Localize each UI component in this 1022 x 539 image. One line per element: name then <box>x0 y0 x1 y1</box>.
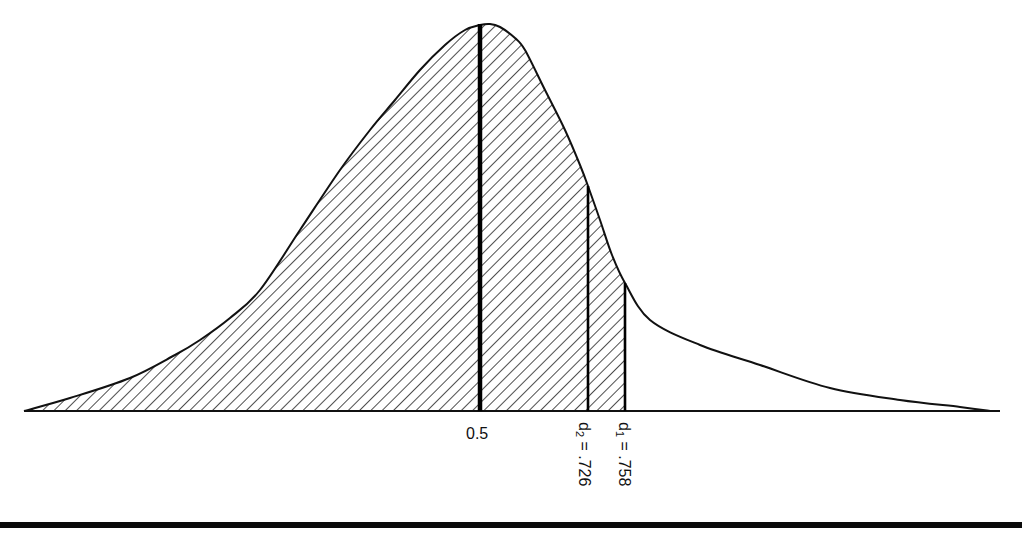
d1-label-main: d <box>616 422 633 431</box>
d1-label-value: = .758 <box>616 437 633 486</box>
median-label: 0.5 <box>466 426 488 442</box>
d1-label: d1 = .758 <box>614 422 632 486</box>
bottom-rule <box>0 522 1022 528</box>
d2-label-main: d <box>576 422 593 431</box>
d2-label-value: = .726 <box>576 437 593 486</box>
d2-label: d2 = .726 <box>574 422 592 486</box>
shaded-area <box>24 24 990 411</box>
density-chart <box>0 0 1022 539</box>
